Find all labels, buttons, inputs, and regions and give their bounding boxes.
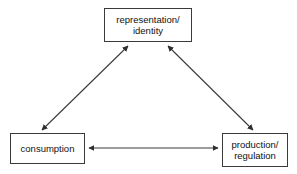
diagram-canvas: representation/ identity consumption pro…: [0, 0, 297, 174]
node-representation-identity: representation/ identity: [104, 8, 192, 42]
node-production-label: production/ regulation: [228, 139, 281, 162]
node-consumption-label: consumption: [18, 143, 78, 155]
node-representation-label: representation/ identity: [113, 14, 182, 37]
edge-consumption-representation: [42, 46, 128, 130]
node-production-regulation: production/ regulation: [222, 133, 288, 167]
edge-production-representation: [168, 46, 253, 130]
node-consumption: consumption: [10, 133, 85, 164]
